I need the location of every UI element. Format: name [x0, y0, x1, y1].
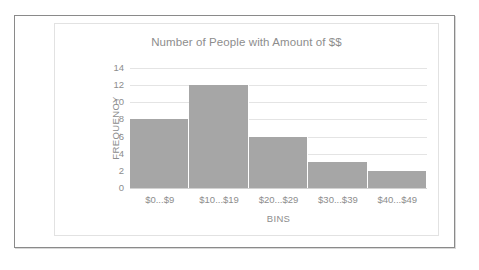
y-axis-tick-label: 4: [119, 149, 124, 159]
axis-baseline: [130, 188, 427, 189]
y-axis-tick-label: 8: [119, 115, 124, 125]
bar-series: [130, 68, 427, 188]
document-frame: Number of People with Amount of $$ FREQU…: [14, 15, 455, 248]
chart-container[interactable]: Number of People with Amount of $$ FREQU…: [54, 23, 439, 236]
chart-title: Number of People with Amount of $$: [55, 36, 438, 48]
x-axis-tick-label: $30...$39: [318, 195, 358, 205]
x-axis-label: BINS: [130, 213, 427, 224]
y-axis-tick-label: 14: [113, 63, 124, 73]
y-axis-tick-label: 0: [119, 183, 124, 193]
y-axis-tick-label: 6: [119, 132, 124, 142]
x-axis-tick-label: $20...$29: [259, 195, 299, 205]
bar[interactable]: [308, 162, 367, 188]
plot-area: FREQUENCY 02468101214 $0...$9$10...$19$2…: [130, 68, 427, 188]
y-axis-tick-label: 2: [119, 166, 124, 176]
x-axis-tick-label: $40...$49: [377, 195, 417, 205]
y-axis-tick-label: 12: [113, 80, 124, 90]
x-axis-tick-label: $10...$19: [199, 195, 239, 205]
bar[interactable]: [368, 171, 427, 188]
x-axis-tick-label: $0...$9: [145, 195, 174, 205]
bar[interactable]: [249, 137, 308, 188]
bar[interactable]: [130, 119, 189, 188]
bar[interactable]: [189, 85, 248, 188]
y-axis-tick-label: 10: [113, 98, 124, 108]
